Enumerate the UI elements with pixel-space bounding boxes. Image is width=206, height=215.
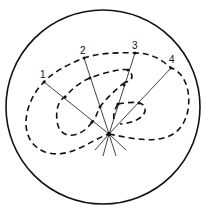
spiral-ray-diagram: 1 2 3 4 [0,0,206,215]
ray-label-3: 3 [132,40,138,51]
ray-label-4: 4 [169,54,175,65]
outer-circle [6,10,200,204]
ray-label-2: 2 [80,45,86,56]
ray-2 [84,58,109,134]
diagram-canvas: 1 2 3 4 [0,0,206,215]
rays [44,53,171,134]
intersection-dots [43,52,173,137]
ray-label-1: 1 [40,69,46,80]
ray-4 [109,68,171,134]
